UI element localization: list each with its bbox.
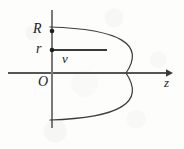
figure-canvas: R r v O z	[0, 0, 184, 149]
marker-dot-R	[50, 29, 55, 34]
marker-dot-r	[50, 48, 55, 53]
label-R: R	[33, 22, 42, 36]
label-r: r	[36, 42, 41, 56]
diagram-graphics	[0, 0, 184, 149]
label-v: v	[62, 52, 68, 65]
label-origin-O: O	[38, 75, 48, 89]
label-z-axis: z	[164, 76, 169, 89]
